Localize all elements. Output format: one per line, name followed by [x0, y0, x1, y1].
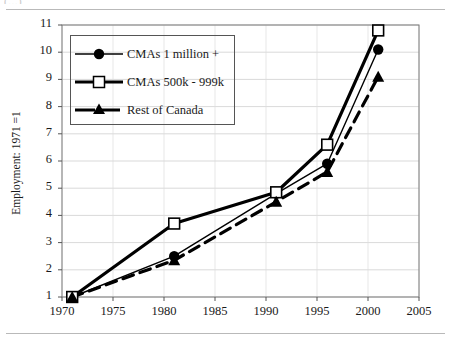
- y-tick-label: 6: [20, 152, 52, 167]
- x-tick-label: 1975: [89, 304, 137, 319]
- y-tick-marks: [58, 25, 62, 297]
- figure-page: (...) Employment: 1971 =1 1234567891011 …: [0, 0, 451, 351]
- legend-item-rest-of-canada: Rest of Canada: [71, 95, 234, 125]
- y-tick-label: 5: [20, 179, 52, 194]
- legend-key-filled-triangle-icon: [71, 100, 127, 120]
- y-tick-label: 9: [20, 70, 52, 85]
- x-tick-label: 1970: [38, 304, 86, 319]
- x-tick-label: 1980: [140, 304, 188, 319]
- y-tick-label: 3: [20, 234, 52, 249]
- legend-label-rest-of-canada: Rest of Canada: [127, 103, 203, 118]
- legend-label-cmas-500k-999k: CMAs 500k - 999k: [127, 75, 224, 90]
- x-tick-label: 1990: [242, 304, 290, 319]
- y-tick-label: 1: [20, 288, 52, 303]
- legend-item-cmas-500k-999k: CMAs 500k - 999k: [71, 67, 234, 97]
- chart-figure: Employment: 1971 =1 1234567891011 197019…: [0, 9, 451, 333]
- y-tick-label: 10: [20, 43, 52, 58]
- clipped-header-text: (...): [4, 0, 22, 4]
- y-tick-label: 4: [20, 206, 52, 221]
- y-tick-label: 2: [20, 261, 52, 276]
- y-tick-label: 7: [20, 125, 52, 140]
- x-tick-label: 1985: [191, 304, 239, 319]
- legend-item-cmas-1-million: CMAs 1 million +: [71, 39, 234, 69]
- x-tick-label: 2005: [395, 304, 443, 319]
- legend-key-filled-circle-icon: [71, 44, 127, 64]
- x-tick-marks: [62, 297, 419, 301]
- y-tick-label: 11: [20, 16, 52, 31]
- x-tick-label: 1995: [293, 304, 341, 319]
- bottom-horizontal-rule: [6, 333, 445, 334]
- chart-legend: CMAs 1 million + CMAs 500k - 999k: [70, 35, 235, 125]
- legend-label-cmas-1-million: CMAs 1 million +: [127, 47, 219, 62]
- x-tick-label: 2000: [344, 304, 392, 319]
- legend-key-open-square-icon: [71, 72, 127, 92]
- y-tick-label: 8: [20, 98, 52, 113]
